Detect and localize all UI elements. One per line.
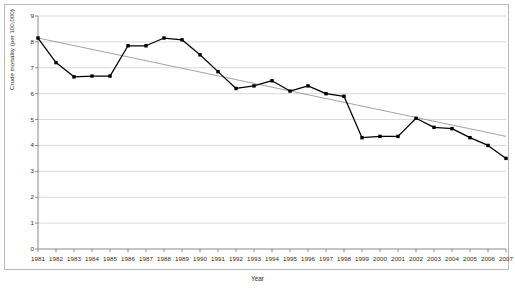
x-tick-label: 1993: [247, 256, 261, 262]
y-tick-label: 7: [22, 65, 34, 71]
x-tick-label: 1997: [319, 256, 333, 262]
y-tick-label: 3: [22, 168, 34, 174]
y-axis-title: Crude mortality (per 100,000): [9, 0, 15, 90]
x-tick-label: 1994: [265, 256, 279, 262]
chart-plot-area: [0, 0, 515, 291]
crude-mortality-series-line: [38, 38, 506, 158]
x-tick-label: 1996: [301, 256, 315, 262]
x-tick-label: 1982: [49, 256, 63, 262]
y-tick-label: 5: [22, 116, 34, 122]
x-tick-label: 1989: [175, 256, 189, 262]
trend-line-series: [38, 38, 506, 136]
x-tick-label: 1995: [283, 256, 297, 262]
x-tick-label: 1981: [31, 256, 45, 262]
y-tick-label: 9: [22, 13, 34, 19]
x-tick-label: 2000: [373, 256, 387, 262]
y-tick-label: 0: [22, 246, 34, 252]
x-tick-label: 2002: [409, 256, 423, 262]
y-tick-label: 4: [22, 142, 34, 148]
x-tick-label: 2005: [463, 256, 477, 262]
y-tick-label: 6: [22, 91, 34, 97]
x-tick-label: 1986: [121, 256, 135, 262]
y-tick-label: 2: [22, 194, 34, 200]
x-tick-label: 1990: [193, 256, 207, 262]
x-tick-label: 1999: [355, 256, 369, 262]
x-tick-label: 2004: [445, 256, 459, 262]
x-tick-label: 1988: [157, 256, 171, 262]
chart-figure: Crude mortality (per 100,000) Year 19811…: [0, 0, 515, 291]
gridlines: [38, 16, 506, 223]
y-tick-label: 8: [22, 39, 34, 45]
x-tick-label: 1987: [139, 256, 153, 262]
x-tick-label: 2007: [499, 256, 513, 262]
x-tick-label: 1992: [229, 256, 243, 262]
x-tick-label: 1983: [67, 256, 81, 262]
x-tick-label: 1998: [337, 256, 351, 262]
x-tick-label: 1991: [211, 256, 225, 262]
x-tick-label: 2001: [391, 256, 405, 262]
y-tick-label: 1: [22, 220, 34, 226]
x-axis-title: Year: [0, 276, 515, 282]
x-tick-label: 2006: [481, 256, 495, 262]
x-tick-label: 1984: [85, 256, 99, 262]
crude-mortality-series-markers: [36, 36, 507, 160]
x-tick-label: 2003: [427, 256, 441, 262]
x-tick-label: 1985: [103, 256, 117, 262]
